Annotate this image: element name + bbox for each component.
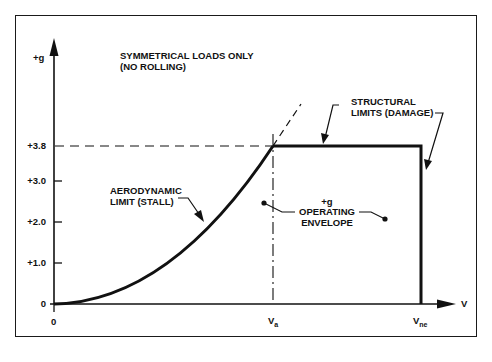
y-tick-0: 0: [6, 298, 46, 309]
y-tick-3-0: +3.0: [6, 175, 46, 186]
y-tick-3-8: +3.8: [6, 140, 46, 151]
diagram-title-line2: (NO ROLLING): [120, 61, 186, 72]
vne-label: Vne: [413, 315, 428, 327]
aero-limit-line2: LIMIT (STALL): [110, 196, 174, 207]
envelope-line2: OPERATING: [297, 206, 357, 217]
y-ticks: [54, 181, 62, 312]
aero-arrow-icon: [194, 210, 204, 222]
y-tick-2-0: +2.0: [6, 216, 46, 227]
x-axis-label: V: [461, 298, 467, 309]
structural-limits-line1: STRUCTURAL: [351, 96, 416, 107]
y-axis-arrow-icon: [50, 38, 59, 56]
va-label: Va: [268, 315, 278, 327]
stall-extension-dashed: [273, 104, 301, 146]
envelope-line3: ENVELOPE: [297, 217, 357, 228]
aero-limit-line1: AERODYNAMIC: [110, 185, 182, 196]
diagram-title-line1: SYMMETRICAL LOADS ONLY: [120, 50, 254, 61]
aerodynamic-limit-curve: [54, 146, 273, 304]
structural-limits-line2: LIMITS (DAMAGE): [351, 107, 433, 118]
y-axis-label: +g: [33, 52, 44, 63]
y-tick-1-0: +1.0: [6, 257, 46, 268]
x-origin-label: 0: [51, 316, 56, 327]
x-axis-arrow-icon: [437, 300, 456, 309]
structural-arrow-icon-2: [424, 159, 432, 170]
structural-arrow-icon: [321, 133, 329, 144]
